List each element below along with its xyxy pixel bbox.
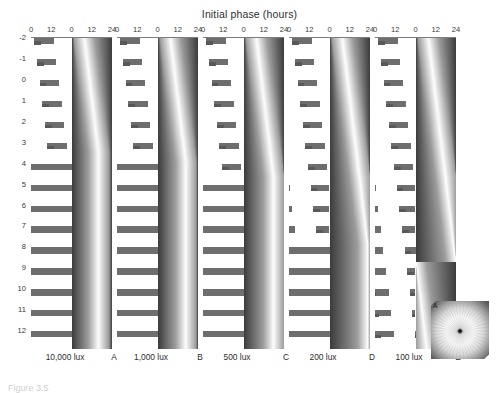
activity-band	[295, 62, 302, 65]
activity-band	[203, 289, 244, 295]
activity-band	[31, 310, 72, 316]
activity-band	[375, 268, 386, 274]
actogram-raster	[375, 38, 416, 349]
activity-band	[203, 185, 244, 191]
x-tick-label: 12	[88, 25, 96, 34]
panel-lux-label: 100 lux	[396, 352, 423, 362]
activity-band	[117, 268, 158, 274]
activity-band	[313, 209, 320, 212]
panel-lux-label: 10,000 lux	[46, 352, 85, 362]
activity-band	[117, 164, 158, 170]
x-tick-label: 0	[155, 25, 159, 34]
activity-band	[117, 331, 158, 337]
activity-band	[381, 62, 388, 65]
activity-band	[120, 41, 127, 44]
activity-band	[117, 226, 158, 232]
panel-id-label: B	[197, 352, 203, 362]
actogram-panel-b	[117, 37, 198, 349]
density-heatmap	[330, 38, 371, 349]
activity-band	[31, 185, 72, 191]
polar-rays-icon	[431, 301, 489, 359]
x-tick-label: 12	[219, 25, 227, 34]
activity-band	[289, 268, 330, 274]
activity-band	[212, 83, 219, 86]
activity-band	[214, 104, 221, 107]
x-tick-label: 0	[201, 25, 205, 34]
activity-band	[289, 226, 295, 232]
y-tick-label: 4	[22, 158, 26, 167]
activity-band	[289, 331, 330, 337]
activity-band	[289, 247, 330, 253]
activity-band	[45, 125, 52, 128]
activity-band	[31, 289, 72, 295]
activity-band	[375, 335, 381, 338]
x-tick-label: 0	[287, 25, 291, 34]
panel-label-row: 10,000 luxA1,000 luxB500 luxC200 luxD100…	[0, 352, 499, 366]
x-tick-label: 12	[133, 25, 141, 34]
heatmap-row	[158, 348, 199, 349]
activity-band	[117, 310, 158, 316]
actogram-panel-c	[203, 37, 284, 349]
activity-band	[40, 83, 47, 86]
x-tick-label: 12	[174, 25, 182, 34]
panel-id-label: A	[111, 352, 117, 362]
density-heatmap	[244, 38, 285, 349]
activity-band	[203, 226, 244, 232]
heatmap-row	[72, 348, 113, 349]
activity-band	[203, 206, 244, 212]
x-tick-label: 0	[413, 25, 417, 34]
activity-band	[47, 146, 54, 149]
figure-caption: Figure 3.5	[8, 383, 49, 393]
activity-band	[31, 164, 72, 170]
activity-band	[133, 146, 140, 149]
activity-band	[289, 289, 330, 295]
activity-band	[219, 146, 226, 149]
x-tick-label: 12	[432, 25, 440, 34]
activity-band	[34, 41, 41, 44]
actogram-raster	[117, 38, 158, 349]
activity-band	[375, 185, 376, 191]
activity-band	[289, 206, 292, 212]
density-heatmap	[72, 38, 113, 349]
activity-band	[117, 206, 158, 212]
activity-band	[126, 83, 133, 86]
activity-band	[131, 125, 138, 128]
activity-band	[31, 331, 72, 337]
y-tick-label: 3	[22, 137, 26, 146]
activity-band	[117, 185, 158, 191]
panel-lux-label: 200 lux	[310, 352, 337, 362]
activity-band	[316, 230, 323, 233]
x-tick-label: 24	[452, 25, 460, 34]
y-tick-label: 7	[22, 221, 26, 230]
x-tick-label: 0	[241, 25, 245, 34]
x-tick-label: 0	[115, 25, 119, 34]
x-axis-tick-row: 0120122401201224012012240120122401201224	[0, 25, 499, 37]
activity-band	[399, 209, 406, 212]
activity-band	[117, 289, 158, 295]
activity-band	[389, 125, 396, 128]
activity-band	[31, 226, 72, 232]
activity-band	[289, 310, 330, 316]
activity-band	[407, 272, 414, 275]
activity-band	[42, 104, 49, 107]
activity-band	[300, 104, 307, 107]
activity-band	[128, 104, 135, 107]
activity-band	[203, 247, 244, 253]
inset-label: A	[433, 302, 437, 309]
activity-band	[386, 104, 393, 107]
y-tick-label: 10	[18, 284, 26, 293]
activity-band	[405, 251, 412, 254]
figure-title: Initial phase (hours)	[0, 8, 499, 20]
activity-band	[206, 41, 213, 44]
activity-band	[375, 206, 378, 212]
activity-band	[375, 247, 383, 253]
actogram-raster	[203, 38, 244, 349]
actogram-raster	[289, 38, 330, 349]
y-axis-tick-column: -2-10123456789101112	[0, 0, 30, 392]
heatmap-row	[244, 348, 285, 349]
x-tick-label: 12	[391, 25, 399, 34]
activity-band	[308, 167, 315, 170]
activity-band	[289, 185, 290, 191]
y-tick-label: 5	[22, 179, 26, 188]
